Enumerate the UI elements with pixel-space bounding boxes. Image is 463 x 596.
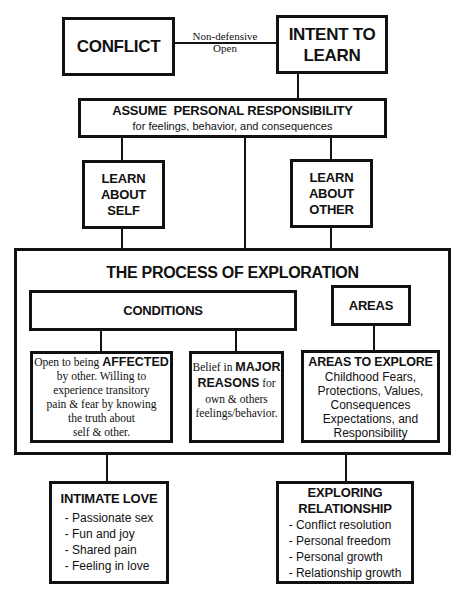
connector-self-process: [121, 228, 123, 249]
list-item: - Relationship growth: [289, 565, 402, 581]
list-item: - Passionate sex: [65, 510, 154, 526]
intimate-love-box: INTIMATE LOVE - Passionate sex - Fun and…: [49, 481, 169, 584]
major-reasons-box: Belief in MAJOR REASONS for own & others…: [189, 351, 284, 443]
connector-conditions-major: [235, 330, 237, 352]
areas-to-explore-box: AREAS TO EXPLORE Childhood Fears, Protec…: [301, 350, 440, 443]
list-item: - Personal growth: [289, 549, 402, 565]
connector-other-process: [330, 227, 332, 249]
connector-areas-explore: [373, 325, 375, 351]
areas-box: AREAS: [331, 285, 411, 326]
intent-to-learn-box: INTENT TO LEARN: [276, 15, 388, 74]
list-item: - Feeling in love: [65, 558, 154, 574]
connector-process-relationship: [345, 454, 347, 482]
connector-intent-responsibility: [297, 73, 299, 99]
connector-process-love: [106, 454, 108, 482]
exploring-relationship-list: - Conflict resolution - Personal freedom…: [289, 517, 402, 581]
conflict-label: CONFLICT: [77, 36, 161, 57]
conditions-box: CONDITIONS: [29, 290, 297, 331]
list-item: - Conflict resolution: [289, 517, 402, 533]
connector-responsibility-process: [244, 137, 246, 249]
list-item: - Fun and joy: [65, 526, 154, 542]
intimate-love-list: - Passionate sex - Fun and joy - Shared …: [65, 510, 154, 574]
connector-label: Non-defensive Open: [180, 30, 270, 54]
learn-about-other-box: LEARN ABOUT OTHER: [290, 159, 373, 228]
exploring-relationship-box: EXPLORING RELATIONSHIP - Conflict resolu…: [276, 481, 414, 584]
affected-box: Open to being AFFECTED by other. Willing…: [30, 351, 173, 443]
connector-responsibility-self: [121, 137, 123, 161]
list-item: - Personal freedom: [289, 533, 402, 549]
process-title: THE PROCESS OF EXPLORATION: [106, 262, 358, 283]
conflict-box: CONFLICT: [62, 17, 175, 76]
connector-conditions-affected: [100, 330, 102, 352]
responsibility-box: ASSUME PERSONAL RESPONSIBILITY for feeli…: [78, 98, 387, 138]
learn-about-self-box: LEARN ABOUT SELF: [82, 160, 165, 229]
connector-responsibility-other: [330, 137, 332, 160]
list-item: - Shared pain: [65, 542, 154, 558]
